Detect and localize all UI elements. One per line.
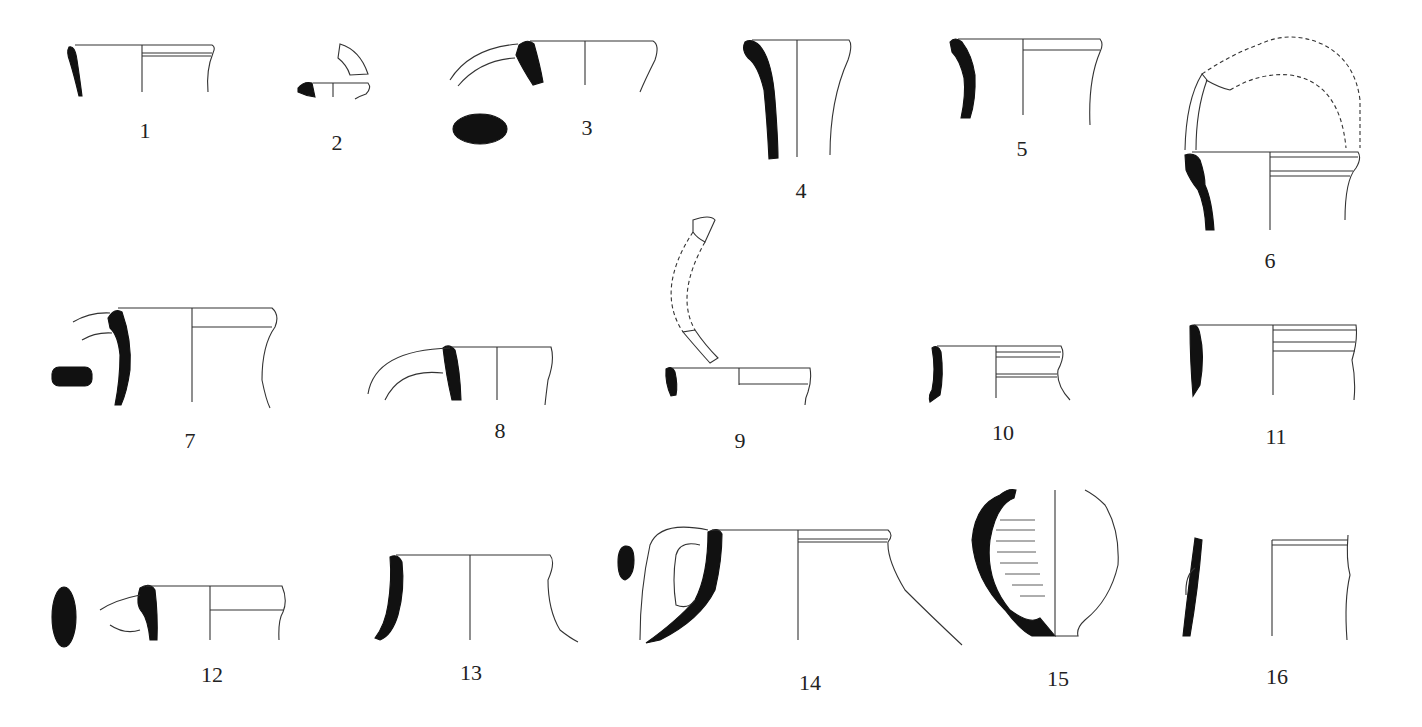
figure-number-15: 15 [1047,666,1069,692]
vessel-7-profile [52,308,277,408]
vessel-10-profile [929,346,1070,402]
vessel-3-profile [450,41,657,144]
vessel-13-profile [375,555,578,642]
vessel-11-profile [1190,325,1357,400]
figure-number-3: 3 [582,115,593,141]
figure-number-4: 4 [796,178,807,204]
vessel-14-profile [618,527,962,645]
vessel-4-profile [744,40,851,159]
vessel-16-profile [1183,535,1350,640]
figure-number-11: 11 [1265,424,1286,450]
vessel-1-profile [68,45,215,96]
vessel-2-profile [298,44,370,99]
vessel-6-profile [1185,37,1360,230]
vessel-9-profile [666,217,811,405]
vessel-12-profile [52,585,285,647]
figure-number-16: 16 [1266,664,1288,690]
figure-number-9: 9 [735,428,746,454]
figure-number-1: 1 [140,118,151,144]
figure-number-10: 10 [992,420,1014,446]
vessel-5-profile [950,39,1102,125]
vessel-8-profile [368,346,552,405]
vessel-15-profile [972,490,1118,636]
figure-number-6: 6 [1265,248,1276,274]
figure-number-5: 5 [1017,136,1028,162]
figure-number-7: 7 [185,428,196,454]
figure-number-8: 8 [495,418,506,444]
pottery-plate-drawing [0,0,1422,727]
figure-number-13: 13 [460,660,482,686]
figure-number-14: 14 [799,670,821,696]
figure-number-12: 12 [201,662,223,688]
figure-number-2: 2 [332,130,343,156]
